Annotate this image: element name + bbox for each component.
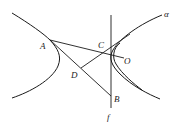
hyperbola-left-branch [12,13,60,98]
label-alpha: α [164,9,169,19]
label-C: C [98,40,105,50]
label-D: D [70,70,78,80]
arc-near-O [114,43,142,90]
label-O: O [124,56,131,66]
geometry-figure: A C O D B f α [0,0,180,127]
label-f: f [107,112,111,122]
label-B: B [114,94,120,104]
segment-DC [81,34,130,68]
segment-AO [50,40,124,58]
label-A: A [39,41,46,51]
